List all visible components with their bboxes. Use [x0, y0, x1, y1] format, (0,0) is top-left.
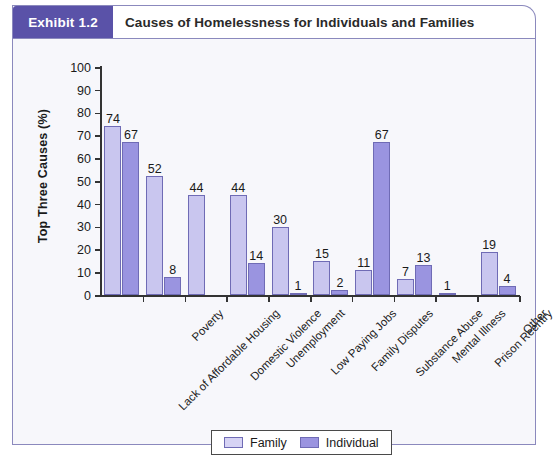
- bar-individual: 67: [373, 142, 390, 295]
- y-axis-title: Top Three Causes (%): [36, 91, 50, 261]
- y-axis-tick-mark: 30: [95, 227, 101, 229]
- bar-value-label: 67: [124, 128, 138, 142]
- y-axis-tick-label: 30: [77, 220, 91, 234]
- x-axis-tick-mark: [519, 296, 521, 302]
- y-axis-tick-label: 100: [70, 61, 91, 75]
- y-axis-tick-mark: 70: [95, 135, 101, 137]
- bar-family: 52: [146, 176, 163, 295]
- bar-individual: 4: [499, 286, 516, 295]
- x-axis-tick-mark: [268, 296, 270, 302]
- x-axis-tick-mark: [352, 296, 354, 302]
- exhibit-container: Exhibit 1.2 Causes of Homelessness for I…: [12, 5, 536, 445]
- y-axis-tick-label: 20: [77, 243, 91, 257]
- exhibit-badge: Exhibit 1.2: [13, 6, 113, 39]
- y-axis-tick-label: 40: [77, 198, 91, 212]
- bar-value-label: 4: [504, 272, 511, 286]
- x-axis-tick-mark: [310, 296, 312, 302]
- y-axis-tick-mark: 40: [95, 204, 101, 206]
- exhibit-body: Top Three Causes (%) 0102030405060708090…: [12, 38, 536, 445]
- x-axis-tick-mark: [394, 296, 396, 302]
- y-axis-tick-label: 70: [77, 129, 91, 143]
- bar-family: 74: [104, 126, 121, 295]
- bar-family: 15: [313, 261, 330, 295]
- bar-value-label: 44: [231, 181, 245, 195]
- y-axis-tick-label: 50: [77, 175, 91, 189]
- bar-value-label: 74: [106, 112, 120, 126]
- bar-family: 19: [481, 252, 498, 295]
- bar-individual: 14: [248, 263, 265, 295]
- bar-family: 30: [272, 227, 289, 295]
- y-axis-tick-mark: 90: [95, 90, 101, 92]
- y-axis-tick-mark: 60: [95, 158, 101, 160]
- y-axis-tick-mark: 100: [95, 67, 101, 69]
- y-axis-tick-label: 60: [77, 152, 91, 166]
- bar-value-label: 15: [315, 247, 329, 261]
- legend-item-individual: Individual: [300, 436, 379, 450]
- bar-individual: 67: [122, 142, 139, 295]
- y-axis-tick-label: 80: [77, 106, 91, 120]
- exhibit-title: Causes of Homelessness for Individuals a…: [125, 6, 474, 39]
- bar-value-label: 44: [190, 181, 204, 195]
- bar-individual: 2: [331, 290, 348, 295]
- x-axis-tick-mark: [477, 296, 479, 302]
- y-axis-tick-mark: 10: [95, 272, 101, 274]
- bar-value-label: 67: [375, 128, 389, 142]
- exhibit-header: Exhibit 1.2 Causes of Homelessness for I…: [12, 5, 536, 38]
- bar-individual: 8: [164, 277, 181, 295]
- bar-value-label: 30: [273, 213, 287, 227]
- y-axis-tick-label: 0: [84, 289, 91, 303]
- x-axis-category-label: Poverty: [189, 307, 225, 343]
- bar-value-label: 2: [336, 276, 343, 290]
- bar-value-label: 1: [444, 279, 451, 293]
- plot-area: 0102030405060708090100 74675284444143011…: [101, 67, 519, 295]
- bar-family: 7: [397, 279, 414, 295]
- bar-value-label: 8: [169, 263, 176, 277]
- x-axis-tick-mark: [185, 296, 187, 302]
- legend-swatch-individual-icon: [300, 437, 319, 448]
- bar-chart: Top Three Causes (%) 0102030405060708090…: [13, 39, 535, 444]
- y-axis-tick-mark: 50: [95, 181, 101, 183]
- bar-value-label: 1: [295, 279, 302, 293]
- legend-label-family: Family: [250, 436, 287, 450]
- bar-family: 44: [188, 195, 205, 295]
- bar-value-label: 52: [148, 162, 162, 176]
- legend-label-individual: Individual: [326, 436, 379, 450]
- bar-value-label: 19: [482, 238, 496, 252]
- legend-item-family: Family: [224, 436, 287, 450]
- x-axis-tick-mark: [435, 296, 437, 302]
- y-axis-tick-label: 90: [77, 84, 91, 98]
- bar-family: 44: [230, 195, 247, 295]
- bar-individual: 13: [415, 265, 432, 295]
- legend-swatch-family-icon: [224, 437, 243, 448]
- y-axis-tick-mark: 20: [95, 249, 101, 251]
- bar-family: 11: [355, 270, 372, 295]
- x-axis-tick-mark: [226, 296, 228, 302]
- chart-legend: Family Individual: [211, 430, 392, 455]
- bar-value-label: 11: [357, 256, 370, 270]
- y-axis-tick-mark: 80: [95, 113, 101, 115]
- bar-value-label: 14: [249, 249, 263, 263]
- y-axis-tick-mark: 0: [95, 295, 101, 297]
- bar-individual: 1: [290, 293, 307, 295]
- bar-value-label: 7: [402, 265, 409, 279]
- y-axis-tick-label: 10: [77, 266, 91, 280]
- bar-value-label: 13: [417, 251, 431, 265]
- bar-family: 1: [439, 293, 456, 295]
- x-axis-tick-mark: [143, 296, 145, 302]
